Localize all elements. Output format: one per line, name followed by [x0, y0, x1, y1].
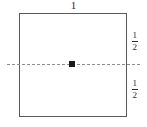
- fraction-denominator: 2: [132, 42, 139, 52]
- fraction-numerator: 1: [132, 79, 139, 90]
- lower-half-height-label: 1 2: [132, 79, 139, 100]
- geometry-diagram: 1 1 2 1 2: [0, 0, 147, 127]
- fraction-one-half-lower: 1 2: [132, 79, 139, 100]
- fraction-one-half-upper: 1 2: [132, 31, 139, 52]
- upper-half-height-label: 1 2: [132, 31, 139, 52]
- fraction-denominator: 2: [132, 90, 139, 100]
- fraction-numerator: 1: [132, 31, 139, 42]
- center-point-marker: [69, 61, 75, 67]
- top-width-label: 1: [0, 0, 147, 11]
